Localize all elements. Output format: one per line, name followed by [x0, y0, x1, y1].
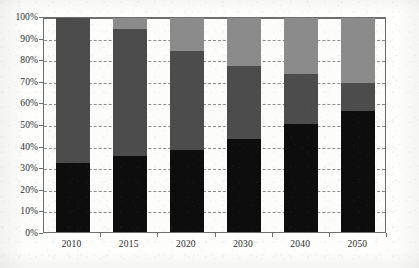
- bar-2040[interactable]: [284, 18, 318, 232]
- y-tick-label-60pct: 60%: [0, 98, 38, 108]
- gridline-20pct: [44, 191, 385, 192]
- gridline-40pct: [44, 148, 385, 149]
- bar-segment-2015-series-2-dark-gray[interactable]: [113, 29, 147, 156]
- y-tick-mark-10pct: [39, 211, 43, 212]
- bar-segment-2010-series-1-black[interactable]: [56, 163, 90, 232]
- x-tick-label-2030: 2030: [233, 239, 253, 249]
- y-tick-label-30pct: 30%: [0, 163, 38, 173]
- y-tick-mark-20pct: [39, 190, 43, 191]
- y-tick-label-40pct: 40%: [0, 142, 38, 152]
- x-axis: 201020152020203020402050: [43, 236, 386, 258]
- y-tick-label-70pct: 70%: [0, 77, 38, 87]
- bar-2015[interactable]: [113, 18, 147, 232]
- bar-segment-2030-series-3-light-gray[interactable]: [227, 17, 261, 66]
- x-tick-mark-1: [157, 233, 158, 237]
- gridline-50pct: [44, 126, 385, 127]
- bar-2010[interactable]: [56, 18, 90, 232]
- bar-segment-2040-series-3-light-gray[interactable]: [284, 17, 318, 74]
- y-tick-mark-50pct: [39, 125, 43, 126]
- y-tick-mark-40pct: [39, 147, 43, 148]
- chart-root: 0%10%20%30%40%50%60%70%80%90%100% 201020…: [0, 0, 419, 268]
- bar-segment-2040-series-2-dark-gray[interactable]: [284, 74, 318, 124]
- chart-canvas: 0%10%20%30%40%50%60%70%80%90%100% 201020…: [0, 0, 419, 268]
- gridline-10pct: [44, 212, 385, 213]
- gridline-60pct: [44, 104, 385, 105]
- x-tick-mark-2: [215, 233, 216, 237]
- x-tick-label-2010: 2010: [62, 239, 82, 249]
- y-tick-mark-70pct: [39, 82, 43, 83]
- y-axis: 0%10%20%30%40%50%60%70%80%90%100%: [0, 0, 40, 268]
- bar-segment-2040-series-1-black[interactable]: [284, 124, 318, 232]
- y-tick-label-50pct: 50%: [0, 120, 38, 130]
- x-tick-mark-4: [329, 233, 330, 237]
- gridline-80pct: [44, 61, 385, 62]
- y-tick-label-0pct: 0%: [0, 228, 38, 238]
- x-tick-label-2020: 2020: [176, 239, 196, 249]
- x-tick-label-2015: 2015: [119, 239, 139, 249]
- x-tick-label-2050: 2050: [348, 239, 368, 249]
- y-tick-mark-100pct: [39, 17, 43, 18]
- bar-segment-2050-series-3-light-gray[interactable]: [341, 17, 375, 83]
- y-tick-label-10pct: 10%: [0, 206, 38, 216]
- y-tick-mark-80pct: [39, 60, 43, 61]
- bar-segment-2010-series-2-dark-gray[interactable]: [56, 17, 90, 163]
- y-tick-mark-30pct: [39, 168, 43, 169]
- bar-segment-2020-series-2-dark-gray[interactable]: [170, 51, 204, 150]
- plot-area: [43, 17, 386, 233]
- x-tick-mark-3: [272, 233, 273, 237]
- bar-segment-2050-series-2-dark-gray[interactable]: [341, 83, 375, 111]
- bar-segment-2020-series-1-black[interactable]: [170, 150, 204, 232]
- y-tick-label-100pct: 100%: [0, 12, 38, 22]
- y-tick-label-80pct: 80%: [0, 55, 38, 65]
- y-tick-mark-90pct: [39, 39, 43, 40]
- gridline-100pct: [44, 18, 385, 19]
- bar-segment-2050-series-1-black[interactable]: [341, 111, 375, 232]
- gridline-30pct: [44, 169, 385, 170]
- y-tick-mark-60pct: [39, 103, 43, 104]
- bar-segment-2015-series-1-black[interactable]: [113, 156, 147, 232]
- y-tick-label-90pct: 90%: [0, 34, 38, 44]
- bar-segment-2030-series-1-black[interactable]: [227, 139, 261, 232]
- x-tick-mark-5: [386, 233, 387, 237]
- y-tick-label-20pct: 20%: [0, 185, 38, 195]
- gridline-90pct: [44, 40, 385, 41]
- bar-segment-2020-series-3-light-gray[interactable]: [170, 17, 204, 51]
- bar-2050[interactable]: [341, 18, 375, 232]
- y-tick-mark-0pct: [39, 233, 43, 234]
- bar-2030[interactable]: [227, 18, 261, 232]
- x-tick-mark-0: [100, 233, 101, 237]
- bar-segment-2015-series-3-light-gray[interactable]: [113, 17, 147, 29]
- gridline-70pct: [44, 83, 385, 84]
- bar-segment-2030-series-2-dark-gray[interactable]: [227, 66, 261, 139]
- x-tick-label-2040: 2040: [290, 239, 310, 249]
- bar-2020[interactable]: [170, 18, 204, 232]
